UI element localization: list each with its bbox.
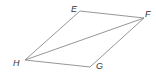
diagonal-hf [25,18,144,60]
parallelogram-diagram: E F G H [0,0,156,77]
vertex-label-g: G [96,61,103,71]
vertex-label-e: E [71,4,78,14]
vertex-label-h: H [13,58,20,68]
vertex-label-f: F [145,9,151,19]
